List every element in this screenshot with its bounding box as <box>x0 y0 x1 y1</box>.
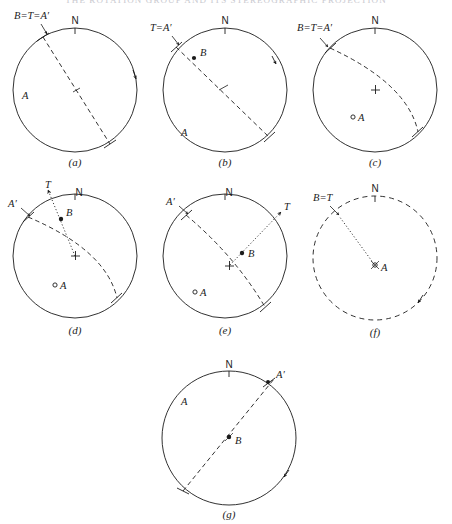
panel-g-label-B: B <box>235 435 242 446</box>
panel-d-point-B <box>59 217 63 221</box>
panel-d: N B T A′ A (d) <box>7 179 137 337</box>
panel-g-label-A: A <box>180 396 188 407</box>
panel-a-label-A: A <box>21 90 29 101</box>
panel-e-caption: (e) <box>219 324 232 337</box>
panel-e: N B T A′ A (e) <box>163 187 291 337</box>
panel-b-tick-mid <box>219 85 228 90</box>
panel-b: N B T=A′ A (b) <box>150 15 287 169</box>
panel-a-leader-btA <box>41 24 47 34</box>
panel-e-point-B <box>240 251 244 255</box>
panel-e-primitive-circle <box>163 194 287 318</box>
panel-b-leader-TAprime <box>172 36 179 45</box>
panel-e-north-label: N <box>225 187 232 198</box>
panel-d-tick-upper <box>23 212 34 222</box>
panel-a: N B=T=A′ A (a) <box>13 10 137 169</box>
panel-f-point-A <box>371 261 379 269</box>
panel-d-center-cross <box>71 251 80 260</box>
panel-e-dotted-tangent-T <box>230 212 281 265</box>
panel-g-label-Aprime: A′ <box>275 369 285 380</box>
panel-b-label-B: B <box>200 47 207 58</box>
panel-c-label-B-T-Aprime: B=T=A′ <box>297 22 333 33</box>
panel-f-label-A: A <box>380 262 388 273</box>
panel-b-point-B <box>192 56 196 60</box>
panel-e-label-B: B <box>248 248 255 259</box>
panel-d-north-label: N <box>75 187 82 198</box>
panel-e-dashed-arc <box>186 215 265 307</box>
panel-c-north-label: N <box>371 15 378 26</box>
panel-f: N A B=T (f) <box>313 183 437 339</box>
panel-b-caption: (b) <box>219 156 232 169</box>
panel-c-point-A <box>351 115 355 119</box>
panel-a-north-label: N <box>71 15 78 26</box>
panel-b-north-label: N <box>221 15 228 26</box>
panel-e-label-A: A <box>199 287 207 298</box>
figure-canvas: N B=T=A′ A (a) N <box>0 0 452 524</box>
panel-c: N A B=T=A′ (c) <box>297 15 437 169</box>
panel-e-label-T: T <box>284 201 291 212</box>
panel-e-point-A <box>193 290 197 294</box>
panel-e-label-Aprime: A′ <box>165 196 175 207</box>
panel-d-dotted-tangent-T <box>48 190 75 256</box>
panel-d-label-A: A <box>59 280 67 291</box>
panel-c-leader-BTAprime <box>320 38 328 47</box>
panel-g-north-label: N <box>225 359 232 370</box>
panel-g: N A′ A B (g) <box>162 359 296 521</box>
panel-g-tick-lower <box>177 488 189 494</box>
panel-e-tick-upper <box>181 210 192 220</box>
panel-b-circulation-arrow <box>272 56 276 64</box>
panel-f-label-B-T: B=T <box>313 192 333 203</box>
panel-b-label-T-Aprime: T=A′ <box>150 22 172 33</box>
panel-d-leader-Aprime <box>21 208 30 216</box>
panel-g-tick-upper <box>263 378 275 387</box>
panel-a-primitive-circle <box>13 28 137 152</box>
panel-f-circulation-arrow <box>418 295 423 303</box>
figure-root: THE ROTATION GROUP AND ITS STEREOGRAPHIC… <box>0 0 452 524</box>
panel-b-dashed-chord <box>176 47 269 137</box>
panel-d-label-T: T <box>45 179 52 190</box>
panel-a-caption: (a) <box>69 156 82 169</box>
panel-d-label-B: B <box>66 207 73 218</box>
panel-f-north-label: N <box>371 183 378 194</box>
panel-d-caption: (d) <box>69 324 82 337</box>
panel-g-circulation-arrow <box>284 470 289 477</box>
panel-c-label-A: A <box>357 112 365 123</box>
panel-a-dashed-chord <box>43 37 110 144</box>
panel-f-dotted-radius <box>339 216 374 264</box>
panel-a-label-B-T-Aprime: B=T=A′ <box>14 10 50 21</box>
panel-d-dashed-arc <box>28 217 117 298</box>
panel-f-primitive-circle-dashed <box>313 196 437 320</box>
panel-f-caption: (f) <box>370 326 381 339</box>
panel-d-label-Aprime: A′ <box>7 198 17 209</box>
panel-c-center-cross <box>371 85 380 94</box>
panel-d-point-A <box>53 283 57 287</box>
panel-b-label-A: A <box>180 127 188 138</box>
panel-g-caption: (g) <box>223 508 236 521</box>
panel-a-tick-mid <box>73 88 80 92</box>
panel-a-tick-upper <box>37 33 49 41</box>
panel-c-caption: (c) <box>369 156 382 169</box>
panel-c-tick-upper <box>325 43 336 53</box>
